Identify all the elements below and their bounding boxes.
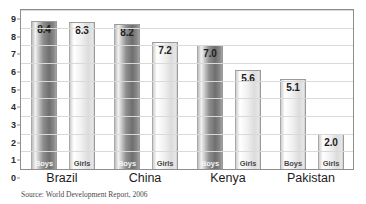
plot-area: 8.4Boys8.3Girls8.2Boys7.2Girls7.0Boys5.6… [20, 9, 354, 170]
bar-value-label: 7.2 [153, 46, 177, 56]
grid-line [21, 28, 353, 29]
bar-group-container: 8.4Boys8.3Girls8.2Boys7.2Girls7.0Boys5.6… [21, 10, 353, 169]
y-axis-tick-label: 3 [11, 121, 16, 130]
source-note: Source: World Development Report, 2006 [21, 190, 148, 199]
grid-line [21, 116, 353, 117]
y-axis-tick-label: 6 [11, 68, 16, 77]
bar-series-label: Girls [236, 160, 260, 168]
bar-pakistan-boys: 5.1Boys [280, 79, 306, 169]
grid-line [21, 45, 353, 46]
bar-value-label: 7.0 [198, 49, 222, 59]
y-axis: 0123456789 [0, 9, 20, 170]
bar-series-label: Girls [70, 160, 94, 168]
bar-series-label: Boys [115, 160, 139, 168]
bar-series-label: Boys [198, 160, 222, 168]
y-axis-tick-label: 9 [11, 15, 16, 24]
bar-value-label: 8.2 [115, 28, 139, 38]
bar-value-label: 5.6 [236, 74, 260, 84]
bar-kenya-girls: 5.6Girls [235, 70, 261, 169]
bar-series-label: Boys [32, 160, 56, 168]
bar-series-label: Girls [153, 160, 177, 168]
bar-series-label: Girls [319, 160, 343, 168]
grid-line [21, 134, 353, 135]
y-axis-tick-label: 2 [11, 138, 16, 147]
grid-line [21, 63, 353, 64]
bar-brazil-boys: 8.4Boys [31, 21, 57, 169]
grid-line [21, 151, 353, 152]
y-axis-tick-label: 4 [11, 103, 16, 112]
y-axis-tick-label: 8 [11, 32, 16, 41]
bar-value-label: 2.0 [319, 138, 343, 148]
bar-value-label: 5.1 [281, 83, 305, 93]
grid-line [21, 10, 353, 11]
bar-china-girls: 7.2Girls [152, 42, 178, 169]
clipped-chart-title [22, 0, 342, 2]
bar-value-label: 8.4 [32, 25, 56, 35]
bar-series-label: Boys [281, 160, 305, 168]
bar-chart: 0123456789 8.4Boys8.3Girls8.2Boys7.2Girl… [0, 0, 366, 204]
grid-line [21, 98, 353, 99]
category-label-pakistan: Pakistan [261, 172, 361, 185]
y-axis-tick-label: 1 [11, 156, 16, 165]
y-axis-tick-label: 7 [11, 50, 16, 59]
grid-line [21, 81, 353, 82]
y-axis-tick-label: 5 [11, 85, 16, 94]
